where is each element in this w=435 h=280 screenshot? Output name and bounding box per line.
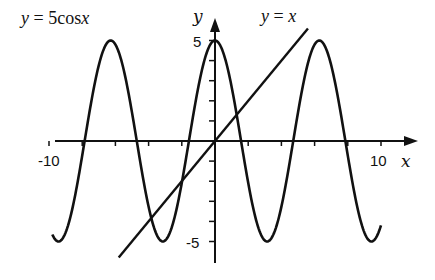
- identity-line: [119, 28, 308, 257]
- x-max-tick-label: 10: [370, 152, 387, 169]
- y-max-tick-label: 5: [193, 33, 201, 50]
- cos-annotation: y = 5cosx: [19, 8, 89, 28]
- y-axis-label: y: [192, 6, 203, 26]
- y-axis-arrow-icon: [210, 18, 220, 32]
- x-min-tick-label: -10: [38, 152, 60, 169]
- chart-plot: -10 10 5 -5 x y y = 5cosx y = x: [0, 0, 435, 280]
- y-min-tick-label: -5: [186, 234, 199, 251]
- line-annotation: y = x: [259, 6, 296, 26]
- x-axis-label: x: [401, 151, 411, 171]
- x-axis: [49, 136, 418, 146]
- x-axis-arrow-icon: [404, 136, 418, 146]
